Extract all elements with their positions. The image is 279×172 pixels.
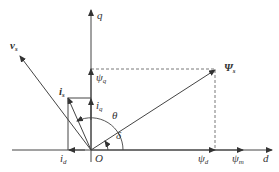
origin-label: O	[95, 153, 103, 164]
delta-arc	[105, 141, 108, 150]
v-s-label: vs	[10, 40, 18, 53]
delta-label: δ	[116, 130, 121, 141]
i-q-label: iq	[96, 100, 103, 113]
i-s-label: is	[59, 86, 65, 99]
phasor-diagram: q d O Ψs ψq ψd ψm vs is iq id θ δ	[0, 0, 279, 172]
psi-d-label: ψd	[198, 153, 208, 166]
psi-m-label: ψm	[232, 153, 244, 166]
q-axis-label: q	[97, 10, 103, 21]
psi-q-label: ψq	[96, 72, 106, 85]
psi-s-label: Ψs	[224, 62, 236, 75]
psi-s-vector	[91, 70, 215, 150]
diagram-graphics	[0, 0, 279, 172]
theta-label: θ	[112, 110, 117, 121]
v-s-vector	[20, 56, 91, 150]
i-d-label: id	[60, 153, 67, 166]
d-axis-label: d	[263, 153, 269, 164]
